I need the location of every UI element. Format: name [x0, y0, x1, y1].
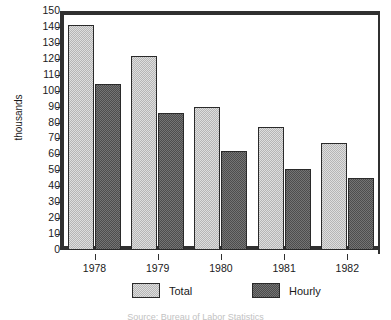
x-axis-tick-label: 1978 — [65, 262, 125, 274]
bar-total-1981[interactable] — [258, 127, 284, 250]
bar-chart: thousands 150140130120110100908070605040… — [0, 0, 391, 320]
bar-total-1982[interactable] — [321, 143, 347, 250]
bar-hourly-1979[interactable] — [158, 113, 184, 250]
chart-legend: Total Hourly — [0, 283, 391, 303]
bar-total-1978[interactable] — [68, 25, 94, 250]
y-axis-tick-label: 130 — [26, 37, 60, 47]
bar-group — [321, 11, 384, 250]
y-axis-tick-label: 60 — [26, 148, 60, 158]
y-axis-tick-label: 30 — [26, 196, 60, 206]
y-axis-tick-label: 50 — [26, 164, 60, 174]
y-axis-tick-label: 120 — [26, 53, 60, 63]
bar-total-1980[interactable] — [194, 107, 220, 250]
y-axis-tick-label: 80 — [26, 117, 60, 127]
legend-item-hourly[interactable]: Hourly — [252, 283, 321, 298]
x-axis-tick-label: 1979 — [128, 262, 188, 274]
x-axis-tick-mark — [221, 254, 222, 260]
legend-label-total: Total — [169, 285, 192, 297]
bar-hourly-1981[interactable] — [285, 169, 311, 250]
x-axis-tick-mark — [284, 254, 285, 260]
bar-group — [194, 11, 257, 250]
y-axis-tick-label: 40 — [26, 180, 60, 190]
y-axis-tick-label: 100 — [26, 85, 60, 95]
y-axis-tick-label: 140 — [26, 21, 60, 31]
y-axis-tick-label: 90 — [26, 101, 60, 111]
y-axis: 1501401301201101009080706050403020100 — [0, 0, 60, 320]
bar-group — [131, 11, 194, 250]
x-axis-tick-mark — [158, 254, 159, 260]
x-axis-tick-mark — [347, 254, 348, 260]
bars-layer — [64, 11, 380, 250]
legend-swatch-hourly-icon — [252, 283, 280, 298]
y-axis-tick-label: 70 — [26, 132, 60, 142]
x-axis-tick-label: 1982 — [317, 262, 377, 274]
chart-caption-text: Source: Bureau of Labor Statistics — [0, 313, 391, 320]
bar-hourly-1980[interactable] — [221, 151, 247, 250]
y-axis-tick-label: 150 — [26, 5, 60, 15]
bar-group — [68, 11, 131, 250]
legend-swatch-total-icon — [132, 283, 160, 298]
x-axis-tick-label: 1980 — [191, 262, 251, 274]
bar-total-1979[interactable] — [131, 56, 157, 250]
bar-group — [258, 11, 321, 250]
bar-hourly-1982[interactable] — [348, 178, 374, 250]
y-axis-tick-label: 110 — [26, 69, 60, 79]
legend-label-hourly: Hourly — [289, 285, 321, 297]
y-axis-tick-label: 20 — [26, 212, 60, 222]
y-axis-tick-label: 0 — [26, 244, 60, 254]
chart-caption-cropped: Source: Bureau of Labor Statistics — [0, 313, 391, 320]
x-axis-tick-label: 1981 — [254, 262, 314, 274]
x-axis-tick-mark — [95, 254, 96, 260]
y-axis-tick-label: 10 — [26, 228, 60, 238]
legend-item-total[interactable]: Total — [132, 283, 192, 298]
bar-hourly-1978[interactable] — [95, 84, 121, 250]
